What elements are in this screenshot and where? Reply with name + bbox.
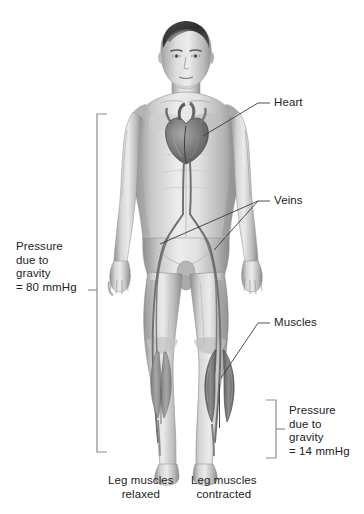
caption-leg-muscles-contracted: Leg muscles contracted: [191, 474, 257, 501]
callout-label-heart: Heart: [274, 96, 303, 110]
venous-pressure-diagram: Heart Veins Muscles Pressure due to grav…: [0, 0, 364, 514]
bracket-right-pressure: [266, 400, 285, 458]
callout-label-veins: Veins: [274, 194, 303, 208]
head: [158, 21, 214, 89]
callout-label-muscles: Muscles: [274, 316, 317, 330]
right-pressure-annotation: Pressure due to gravity = 14 mmHg: [289, 404, 350, 458]
left-pressure-annotation: Pressure due to gravity = 80 mmHg: [16, 240, 77, 294]
caption-leg-muscles-relaxed: Leg muscles relaxed: [108, 474, 174, 501]
body-figure: [108, 21, 263, 486]
bracket-left-pressure: [88, 114, 107, 452]
